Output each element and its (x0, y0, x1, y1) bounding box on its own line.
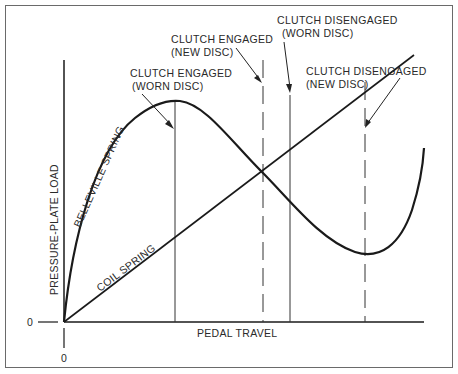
disengaged-worn-arrow (284, 42, 290, 88)
disengaged-new-label-2: (NEW DISC) (306, 78, 369, 90)
disengaged-new-arrow (367, 78, 400, 124)
y-zero-label: 0 (27, 316, 33, 328)
engaged-new-arrowhead (254, 75, 262, 83)
engaged-worn-arrowhead (165, 120, 174, 129)
engaged-worn-label-2: (WORN DISC) (132, 80, 204, 92)
clutch-spring-diagram: 0 0 PEDAL TRAVEL PRESSURE-PLATE LOAD BEL… (0, 0, 458, 374)
disengaged-worn-label-2: (WORN DISC) (282, 27, 354, 39)
engaged-new-label-2: (NEW DISC) (171, 46, 234, 58)
disengaged-worn-label-1: CLUTCH DISENGAGED (277, 14, 398, 26)
disengaged-new-label-1: CLUTCH DISENGAGED (306, 65, 427, 77)
x-axis-label: PEDAL TRAVEL (197, 327, 277, 339)
belleville-spring-label: BELLEVILLE SPRING (71, 124, 127, 229)
x-zero-label: 0 (61, 352, 67, 364)
disengaged-worn-arrowhead (286, 84, 292, 93)
engaged-new-label-1: CLUTCH ENGAGED (171, 33, 273, 45)
coil-spring-label: COIL SPRING (94, 242, 158, 294)
engaged-worn-label-1: CLUTCH ENGAGED (130, 67, 232, 79)
engaged-new-arrow (236, 48, 260, 80)
y-axis-label: PRESSURE-PLATE LOAD (48, 164, 60, 295)
